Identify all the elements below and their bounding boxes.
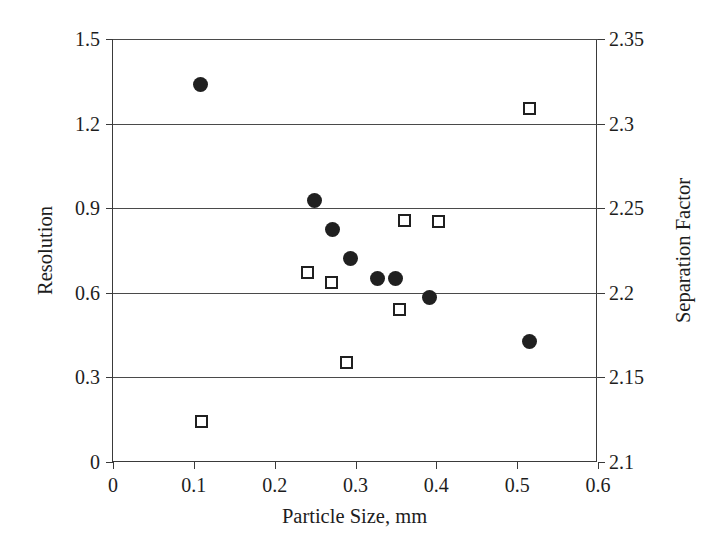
- y-axis-left-tick-label: 0.9: [75, 198, 113, 218]
- x-axis-tick-label: 0.4: [396, 475, 476, 495]
- data-point-open-square: [398, 214, 411, 227]
- x-axis-tick: [517, 462, 518, 469]
- x-axis-tick-label: 0: [73, 475, 153, 495]
- data-point-open-square: [325, 276, 338, 289]
- x-axis-tick: [436, 462, 437, 469]
- y-axis-left-tick-label: 0.3: [75, 367, 113, 387]
- y-axis-right-tick-label: 2.1: [596, 452, 634, 472]
- y-axis-right-tick-label: 2.15: [596, 367, 644, 387]
- data-point-open-square: [523, 102, 536, 115]
- x-axis-tick: [275, 462, 276, 469]
- x-axis-tick-label: 0.1: [154, 475, 234, 495]
- plot-area: 00.30.60.91.21.52.12.152.22.252.32.3500.…: [112, 39, 597, 462]
- data-point-open-square: [393, 303, 406, 316]
- data-point-filled-circle: [343, 251, 358, 266]
- gridline: [113, 377, 598, 378]
- data-point-open-square: [340, 356, 353, 369]
- x-axis-tick: [356, 462, 357, 469]
- data-point-filled-circle: [307, 193, 322, 208]
- data-point-open-square: [432, 215, 445, 228]
- data-point-filled-circle: [193, 77, 208, 92]
- y-axis-right-tick-label: 2.2: [596, 283, 634, 303]
- x-axis-title: Particle Size, mm: [112, 505, 597, 528]
- data-point-filled-circle: [370, 271, 385, 286]
- y-axis-left-tick-label: 0: [90, 452, 113, 472]
- y-axis-left-tick-label: 1.5: [75, 29, 113, 49]
- gridline: [113, 208, 598, 209]
- data-point-filled-circle: [422, 290, 437, 305]
- y-axis-right-tick-label: 2.35: [596, 29, 644, 49]
- x-axis-tick: [194, 462, 195, 469]
- x-axis-tick: [598, 462, 599, 469]
- y-axis-right-title: Separation Factor: [668, 39, 698, 462]
- data-point-filled-circle: [388, 271, 403, 286]
- gridline: [113, 39, 598, 40]
- x-axis-tick-label: 0.6: [558, 475, 638, 495]
- scatter-chart-figure: 00.30.60.91.21.52.12.152.22.252.32.3500.…: [0, 0, 711, 549]
- y-axis-left-tick-label: 1.2: [75, 114, 113, 134]
- x-axis-tick: [113, 462, 114, 469]
- x-axis-tick-label: 0.2: [235, 475, 315, 495]
- y-axis-right-tick-label: 2.25: [596, 198, 644, 218]
- x-axis-tick-label: 0.5: [477, 475, 557, 495]
- y-axis-right-tick-label: 2.3: [596, 114, 634, 134]
- y-axis-left-title: Resolution: [30, 39, 60, 462]
- data-point-filled-circle: [522, 334, 537, 349]
- x-axis-tick-label: 0.3: [316, 475, 396, 495]
- data-point-open-square: [195, 415, 208, 428]
- data-point-filled-circle: [325, 222, 340, 237]
- data-point-open-square: [301, 266, 314, 279]
- gridline: [113, 293, 598, 294]
- y-axis-left-tick-label: 0.6: [75, 283, 113, 303]
- gridline: [113, 124, 598, 125]
